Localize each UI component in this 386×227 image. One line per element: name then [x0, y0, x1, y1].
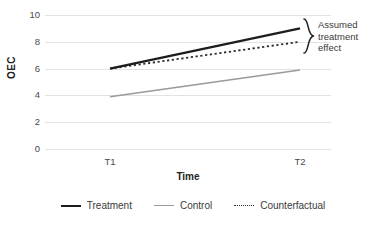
legend-swatch-treatment-icon [61, 201, 81, 211]
line-chart: OEC 10 8 6 4 2 0 T1 T2 Time Assumed trea… [0, 0, 386, 227]
y-tick-label-6: 6 [20, 64, 40, 74]
legend-item-control[interactable]: Control [154, 200, 212, 211]
x-tick-label-t2: T2 [280, 156, 320, 167]
legend-item-treatment[interactable]: Treatment [61, 200, 132, 211]
y-tick-label-10: 10 [20, 10, 40, 20]
series-line-counterfactual [110, 42, 300, 69]
brace-icon [302, 18, 316, 54]
y-axis-title: OEC [6, 48, 17, 88]
annotation-line-3: effect [318, 42, 384, 54]
legend-item-counterfactual[interactable]: Counterfactual [234, 200, 325, 211]
annotation-line-2: treatment [318, 31, 384, 43]
series-canvas [45, 15, 331, 149]
y-tick-label-4: 4 [20, 90, 40, 100]
annotation-line-1: Assumed [318, 19, 384, 31]
plot-area [45, 15, 331, 149]
legend-label-treatment: Treatment [87, 200, 132, 211]
legend: Treatment Control Counterfactual [0, 200, 386, 211]
legend-swatch-control-icon [154, 201, 174, 211]
legend-label-control: Control [180, 200, 212, 211]
legend-label-counterfactual: Counterfactual [260, 200, 325, 211]
x-tick-label-t1: T1 [90, 156, 130, 167]
gridline-0 [45, 149, 331, 150]
annotation-assumed-treatment-effect: Assumed treatment effect [318, 19, 384, 54]
series-line-treatment [110, 28, 300, 68]
y-tick-label-8: 8 [20, 37, 40, 47]
y-tick-label-0: 0 [20, 144, 40, 154]
y-tick-label-2: 2 [20, 117, 40, 127]
x-axis-title: Time [0, 171, 376, 182]
series-line-control [110, 70, 300, 97]
legend-swatch-counterfactual-icon [234, 201, 254, 211]
